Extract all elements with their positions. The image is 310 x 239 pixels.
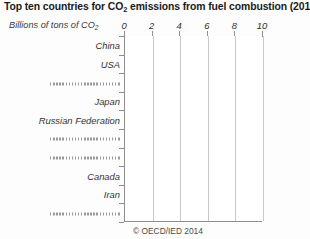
category-label: China [2, 40, 120, 51]
x-tick-label: 0 [121, 20, 126, 31]
y-tick-mark [119, 222, 124, 223]
gridline [235, 36, 236, 221]
x-tick-label: 2 [149, 20, 154, 31]
category-label [2, 77, 120, 88]
x-tick-label: 6 [204, 20, 209, 31]
x-tick-label: 10 [257, 20, 267, 31]
redacted-label-placeholder [50, 138, 120, 141]
title-text-before: Top ten countries for CO [4, 1, 123, 12]
x-axis-label-subscript: 2 [95, 24, 99, 31]
redacted-label-placeholder [50, 82, 120, 85]
category-label [2, 151, 120, 162]
redacted-label-placeholder [50, 212, 120, 215]
gridline [153, 36, 154, 221]
x-axis-label: Billions of tons of CO2 [9, 20, 98, 30]
category-label [2, 207, 120, 218]
gridline [180, 36, 181, 221]
category-label: USA [2, 58, 120, 69]
gridline [208, 36, 209, 221]
category-label: Russian Federation [2, 114, 120, 125]
credit-text: © OECD/IED 2014 [133, 226, 203, 236]
category-label [2, 133, 120, 144]
title-subscript: 2 [123, 5, 127, 14]
plot-area [124, 36, 262, 222]
x-tick-label: 4 [177, 20, 182, 31]
category-label: Japan [2, 96, 120, 107]
x-axis-label-before: Billions of tons of CO [9, 20, 95, 30]
x-tick-label: 8 [232, 20, 237, 31]
page-title: Top ten countries for CO2 emissions from… [4, 1, 308, 12]
category-label: Canada [2, 170, 120, 181]
chart-page: Top ten countries for CO2 emissions from… [0, 0, 310, 239]
gridline [263, 36, 264, 221]
category-label: Iran [2, 189, 120, 200]
redacted-label-placeholder [50, 156, 120, 159]
title-text-after: emissions from fuel combustion (2012) [127, 1, 310, 12]
